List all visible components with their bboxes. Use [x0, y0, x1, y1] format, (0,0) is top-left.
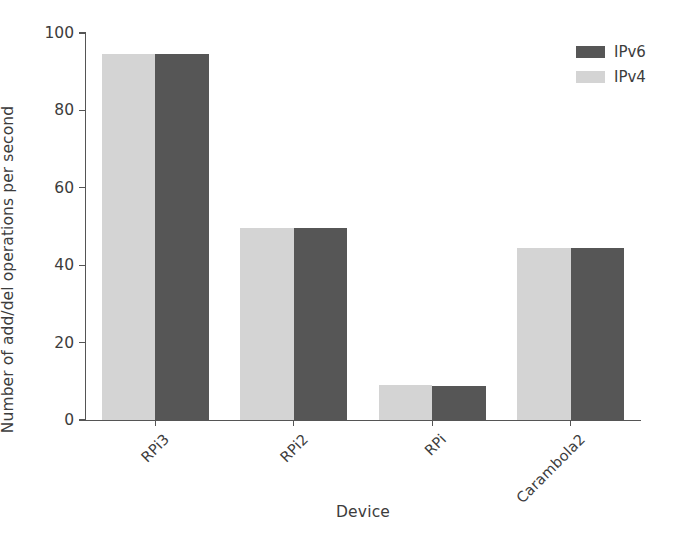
plot-area	[86, 33, 640, 420]
y-tick-mark	[79, 342, 85, 343]
y-tick-label: 60	[54, 179, 74, 197]
legend-swatch	[576, 71, 605, 83]
y-axis-title: Number of add/del operations per second	[0, 0, 28, 539]
x-tick-mark	[155, 420, 156, 426]
x-tick-mark	[570, 420, 571, 426]
x-tick-label: Carambola2	[513, 431, 588, 506]
y-axis-title-text: Number of add/del operations per second	[0, 106, 27, 433]
chart-figure: Number of add/del operations per second …	[0, 0, 677, 539]
y-tick-label: 100	[44, 24, 74, 42]
bar	[155, 54, 209, 420]
bar	[517, 248, 571, 420]
legend-item: IPv4	[576, 66, 671, 88]
bar	[379, 385, 433, 420]
legend-label: IPv6	[614, 43, 646, 61]
bar	[432, 386, 486, 420]
bar	[240, 228, 294, 420]
x-axis-title: Device	[86, 503, 640, 521]
legend-item: IPv6	[576, 41, 671, 63]
y-tick-mark	[79, 419, 85, 420]
y-tick-mark	[79, 110, 85, 111]
y-tick-mark	[79, 187, 85, 188]
chart-legend: IPv6IPv4	[576, 41, 671, 91]
x-tick-label: RPi	[422, 431, 450, 459]
bar	[571, 248, 625, 420]
x-tick-label: RPi2	[277, 431, 311, 465]
y-tick-label: 80	[54, 101, 74, 119]
y-tick-label: 20	[54, 334, 74, 352]
legend-label: IPv4	[614, 68, 646, 86]
y-tick-label: 40	[54, 256, 74, 274]
bar	[102, 54, 156, 420]
y-tick-mark	[79, 32, 85, 33]
x-tick-mark	[293, 420, 294, 426]
legend-swatch	[576, 46, 605, 58]
x-tick-label: RPi3	[138, 431, 172, 465]
y-tick-label: 0	[64, 411, 74, 429]
bar	[294, 228, 348, 420]
y-tick-mark	[79, 265, 85, 266]
x-tick-mark	[432, 420, 433, 426]
